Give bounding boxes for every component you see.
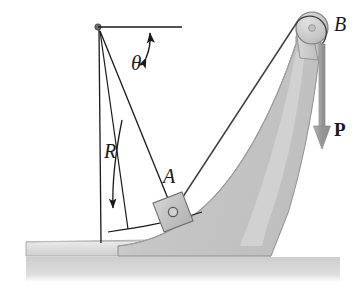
theta-angle-arc xyxy=(146,33,150,58)
force-arrow-head xyxy=(314,126,331,149)
force-arrow-shaft xyxy=(319,44,325,128)
theta-label: θ xyxy=(131,53,141,74)
pulley-hub xyxy=(309,25,316,32)
block-label-a: A xyxy=(163,166,175,186)
physics-diagram-figure: θ R A B P xyxy=(0,0,362,293)
vertical-reference-line xyxy=(99,30,101,243)
slot-arc-end-radius-line xyxy=(100,31,128,229)
block-A-pin xyxy=(168,207,177,216)
curved-wedge-body xyxy=(118,36,321,256)
pulley-label-b: B xyxy=(334,14,346,34)
force-label-p: P xyxy=(334,120,346,139)
diagram-canvas xyxy=(0,0,362,293)
ground-shadow xyxy=(26,257,340,282)
radius-label: R xyxy=(104,141,116,161)
